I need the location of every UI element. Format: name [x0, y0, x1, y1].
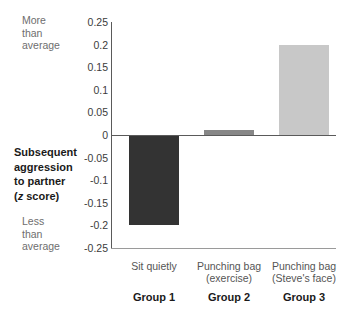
- y-axis-title-line4-suffix: score): [23, 190, 59, 202]
- plot-area: [111, 22, 336, 248]
- y-tick-label: -0.25: [74, 243, 108, 254]
- y-tick-label: -0.15: [74, 198, 108, 209]
- y-tick-label: -0.1: [74, 175, 108, 186]
- y-tick-label: 0.1: [74, 85, 108, 96]
- bar-group-1: [129, 135, 179, 225]
- y-tick-label: -0.05: [74, 153, 108, 164]
- y-axis-title-line2: aggression: [14, 161, 73, 173]
- y-axis-title-line3: to partner: [14, 175, 65, 187]
- x-category-label-3: Punching bag (Steve's face): [265, 260, 343, 285]
- x-category-label-2: Punching bag (exercise): [190, 260, 268, 285]
- x-axis-line: [111, 248, 336, 249]
- y-tick-label: 0.05: [74, 107, 108, 118]
- x-group-label-2: Group 2: [190, 291, 268, 303]
- x-group-label-1: Group 1: [115, 291, 193, 303]
- y-axis-title-line1: Subsequent: [14, 146, 77, 158]
- x-group-label-3: Group 3: [265, 291, 343, 303]
- y-tick-label: 0.15: [74, 62, 108, 73]
- zero-baseline: [111, 135, 336, 136]
- y-tick-label: -0.2: [74, 220, 108, 231]
- y-tick-label: 0.25: [74, 17, 108, 28]
- y-tick-label: 0: [74, 130, 108, 141]
- y-tick-label: 0.2: [74, 40, 108, 51]
- x-category-label-1: Sit quietly: [115, 260, 193, 272]
- bar-chart: More than average Subsequent aggression …: [0, 0, 344, 315]
- bar-group-3: [279, 45, 329, 135]
